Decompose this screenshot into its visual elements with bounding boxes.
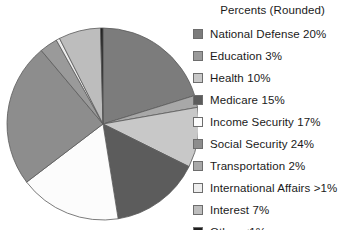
legend-item-label: Interest 7% [210,204,269,216]
legend-item[interactable]: Education 3% [193,45,346,67]
pie-chart-svg [5,26,198,222]
legend-item-label: Other <1% [210,226,266,230]
legend-item-label: Income Security 17% [210,116,321,128]
legend-item[interactable]: Transportation 2% [193,155,346,177]
legend-item-label: Health 10% [210,72,270,84]
legend-color-swatch [193,161,203,171]
legend-item-label: International Affairs >1% [210,182,337,194]
legend-item-label: Education 3% [210,50,282,62]
legend-item-label: Medicare 15% [210,94,285,106]
legend-item-label: Transportation 2% [210,160,305,172]
legend-color-swatch [193,29,203,39]
legend-color-swatch [193,227,203,230]
legend-color-swatch [193,51,203,61]
legend-title: Percents (Rounded) [193,4,346,16]
legend-item[interactable]: Income Security 17% [193,111,346,133]
chart-legend: Percents (Rounded) National Defense 20%E… [193,4,346,230]
legend-color-swatch [193,183,203,193]
legend-item-list: National Defense 20%Education 3%Health 1… [193,23,346,230]
legend-item[interactable]: Social Security 24% [193,133,346,155]
legend-color-swatch [193,117,203,127]
legend-item[interactable]: Other <1% [193,221,346,230]
pie-chart-figure: Percents (Rounded) National Defense 20%E… [0,0,346,230]
legend-color-swatch [193,205,203,215]
legend-item[interactable]: Interest 7% [193,199,346,221]
legend-item-label: National Defense 20% [210,28,326,40]
legend-color-swatch [193,95,203,105]
legend-item[interactable]: Health 10% [193,67,346,89]
legend-color-swatch [193,73,203,83]
legend-color-swatch [193,139,203,149]
pie-slice-group [7,28,198,220]
legend-item[interactable]: International Affairs >1% [193,177,346,199]
legend-item-label: Social Security 24% [210,138,314,150]
pie-chart-plot-area [0,0,192,230]
legend-item[interactable]: Medicare 15% [193,89,346,111]
legend-item[interactable]: National Defense 20% [193,23,346,45]
